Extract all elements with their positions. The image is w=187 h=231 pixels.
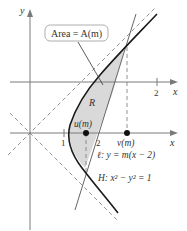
hyperbola-label: H: x² − y² = 1 [97,173,152,183]
upper-x-axis-arrow-icon [170,79,178,85]
lower-x-axis-arrow-icon [170,130,178,136]
region-label: R [88,97,95,108]
lower-x-axis-label: x [169,137,175,148]
area-label: Area = A(m) [51,28,102,40]
line-l-label: ℓ: y = m(x − 2) [97,150,155,161]
hyperbola-area-diagram: Area = A(m) y x 2 x 1 2 R u(m) v(m) ℓ: y… [0,0,187,231]
point-v-label: v(m) [117,138,134,149]
y-axis-arrow-icon [27,9,33,17]
point-u [83,130,89,136]
tick-1-label: 1 [61,138,66,148]
y-axis-label: y [19,5,25,16]
point-v [124,130,130,136]
tick-2-label: 2 [96,138,101,148]
upper-tick-2-label: 2 [154,88,159,98]
point-u-label: u(m) [74,119,92,130]
upper-x-axis-label: x [172,86,178,97]
